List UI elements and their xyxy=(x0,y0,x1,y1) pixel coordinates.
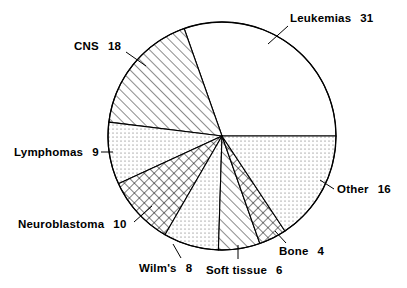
slice-label-text-other: Other xyxy=(337,183,369,195)
slice-label-text-leukemias: Leukemias xyxy=(290,12,351,24)
slice-label-cns: CNS18 xyxy=(74,40,121,52)
pie-chart-svg xyxy=(0,0,407,288)
slice-label-neuroblastoma: Neuroblastoma10 xyxy=(18,218,127,230)
slice-value-other: 16 xyxy=(378,183,391,195)
slice-value-lymphomas: 9 xyxy=(92,146,99,158)
slice-label-other: Other16 xyxy=(337,183,391,195)
leader-line-wilm-s xyxy=(173,244,181,258)
pie-chart-figure: Leukemias31CNS18Lymphomas9Neuroblastoma1… xyxy=(0,0,407,288)
slice-label-text-cns: CNS xyxy=(74,40,99,52)
slice-value-leukemias: 31 xyxy=(360,12,373,24)
slice-label-text-lymphomas: Lymphomas xyxy=(14,146,83,158)
slice-label-soft-tissue: Soft tissue6 xyxy=(206,264,283,276)
slice-label-wilm-s: Wilm's8 xyxy=(139,262,192,274)
slice-label-bone: Bone4 xyxy=(279,245,324,257)
pie-slices-group xyxy=(108,22,336,250)
slice-value-cns: 18 xyxy=(108,40,121,52)
slice-label-text-soft-tissue: Soft tissue xyxy=(206,264,267,276)
slice-label-text-bone: Bone xyxy=(279,245,309,257)
slice-value-bone: 4 xyxy=(318,245,325,257)
slice-label-text-neuroblastoma: Neuroblastoma xyxy=(18,218,104,230)
slice-label-leukemias: Leukemias31 xyxy=(290,12,373,24)
slice-value-wilm-s: 8 xyxy=(186,262,193,274)
slice-label-text-wilm-s: Wilm's xyxy=(139,262,177,274)
slice-value-neuroblastoma: 10 xyxy=(113,218,126,230)
slice-value-soft-tissue: 6 xyxy=(276,264,283,276)
slice-label-lymphomas: Lymphomas9 xyxy=(14,146,99,158)
